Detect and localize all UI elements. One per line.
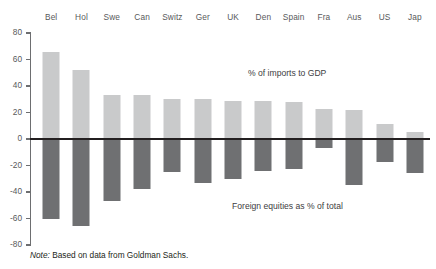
plot-area: 806040200-20-40-60-80 (36, 33, 430, 245)
bar-negative-hol (73, 139, 90, 226)
bar-positive-swe (103, 95, 120, 139)
bar-positive-aus (346, 110, 363, 139)
category-label-uk: UK (218, 12, 248, 28)
category-label-hol: Hol (66, 12, 96, 28)
category-label-spain: Spain (279, 12, 309, 28)
y-axis-tick-label-40: 40 (0, 81, 22, 90)
category-label-us: US (369, 12, 399, 28)
bar-negative-fra (315, 139, 332, 148)
y-axis-tick--60 (26, 218, 31, 219)
bar-negative-switz (164, 139, 181, 172)
bar-negative-spain (285, 139, 302, 169)
bar-negative-swe (103, 139, 120, 201)
bar-positive-us (376, 124, 393, 139)
y-axis-tick-40 (26, 85, 31, 86)
zero-baseline (30, 138, 430, 140)
bar-positive-spain (285, 102, 302, 139)
category-label-jap: Jap (400, 12, 430, 28)
bar-negative-us (376, 139, 393, 162)
category-label-can: Can (127, 12, 157, 28)
bar-positive-uk (225, 101, 242, 139)
category-label-aus: Aus (339, 12, 369, 28)
bar-negative-uk (225, 139, 242, 179)
y-axis-tick-label--80: -80 (0, 240, 22, 249)
chart-container: Bel Hol Swe Can Switz Ger UK Den Spain F… (0, 0, 436, 269)
y-axis-tick-label-0: 0 (0, 134, 22, 143)
category-label-ger: Ger (188, 12, 218, 28)
bar-negative-ger (194, 139, 211, 183)
category-axis-labels: Bel Hol Swe Can Switz Ger UK Den Spain F… (36, 12, 430, 28)
bar-positive-den (255, 101, 272, 139)
y-axis-tick-80 (26, 32, 31, 33)
category-label-switz: Switz (157, 12, 187, 28)
bar-positive-hol (73, 70, 90, 139)
bar-positive-fra (315, 109, 332, 139)
bar-positive-switz (164, 99, 181, 139)
y-axis-tick--20 (26, 165, 31, 166)
bar-negative-jap (406, 139, 423, 173)
bar-positive-ger (194, 99, 211, 139)
y-axis-tick--40 (26, 191, 31, 192)
y-axis-tick-60 (26, 59, 31, 60)
category-label-den: Den (248, 12, 278, 28)
source-note-lead: Note: (30, 250, 50, 260)
y-axis-tick-label--60: -60 (0, 214, 22, 223)
y-axis-tick-label-20: 20 (0, 108, 22, 117)
annotation-foreign-equities: Foreign equities as % of total (232, 201, 343, 212)
category-label-swe: Swe (97, 12, 127, 28)
y-axis-tick-label--20: -20 (0, 161, 22, 170)
bar-positive-can (134, 95, 151, 139)
bar-negative-can (134, 139, 151, 189)
y-axis-tick-label--40: -40 (0, 187, 22, 196)
category-label-fra: Fra (309, 12, 339, 28)
bar-negative-bel (43, 139, 60, 219)
source-note: Note: Based on data from Goldman Sachs. (30, 250, 188, 261)
y-axis-tick-20 (26, 112, 31, 113)
annotation-imports-to-gdp: % of imports to GDP (248, 68, 326, 79)
category-label-bel: Bel (36, 12, 66, 28)
y-axis-tick-label-60: 60 (0, 55, 22, 64)
bar-negative-aus (346, 139, 363, 185)
bar-negative-den (255, 139, 272, 171)
bar-positive-bel (43, 52, 60, 139)
y-axis-tick--80 (26, 244, 31, 245)
source-note-text: Based on data from Goldman Sachs. (50, 250, 188, 260)
y-axis-tick-label-80: 80 (0, 28, 22, 37)
